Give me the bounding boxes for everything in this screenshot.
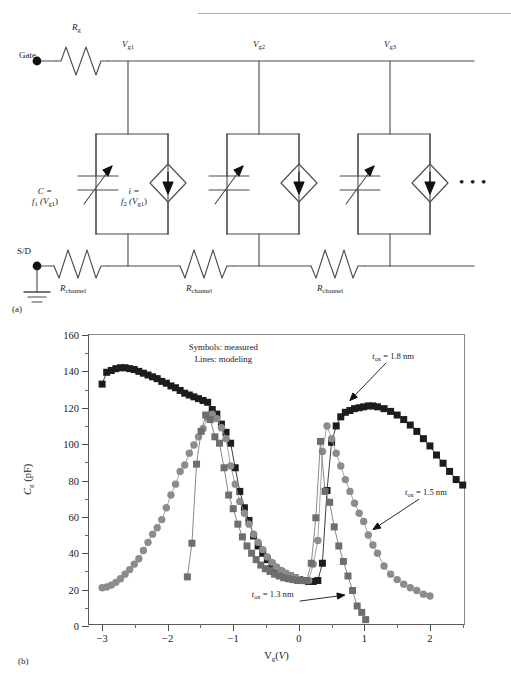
y-tick-label: 100 [63,439,79,450]
y-tick [82,517,89,518]
annotation-arrowhead [337,593,345,599]
legend-note-line2: Lines: modeling [189,354,258,366]
node-vg1-label: Vg1 [122,39,134,50]
circuit-schematic-svg [0,14,511,316]
rchannel-label-3: Rchannel [317,283,343,294]
y-tick [82,553,89,554]
rchannel-subscript-2: channel [192,287,213,294]
y-tick [82,626,89,627]
y-tick [82,371,89,372]
panel-b-tag: (b) [18,656,29,666]
circuit-diagram-panel: Gate Rg Vg1 Vg2 Vg3 C = f1 (Vg1) i = f2 … [0,14,511,316]
x-tick-label: 2 [427,633,432,644]
plot-axes-frame: 020406080100120140160 −3−2−1012 tox = 1.… [88,334,465,625]
current-function-label: i = f2 (Vg1) [103,186,165,208]
y-tick-label: 40 [69,548,80,559]
x-axis-label: Vg(V) [88,650,465,663]
cap-arg-close: ) [55,196,58,206]
y-tick [82,481,89,482]
legend-note-line1: Symbols: measured [189,342,258,354]
cap-eq-text: C = [38,186,52,196]
y-tick-label: 60 [69,511,80,522]
running-header-text [200,0,511,12]
vg2-subscript: g2 [259,43,266,50]
y-tick-label: 0 [74,621,79,632]
panel-a-tag: (a) [12,304,22,314]
rg-label-subscript: g [78,26,81,33]
y-tick [82,335,89,336]
figure-page: Gate Rg Vg1 Vg2 Vg3 C = f1 (Vg1) i = f2 … [0,0,511,674]
rchannel-subscript-3: channel [323,287,344,294]
sd-label: S/D [17,246,31,256]
tox-1p3-label: tox = 1.3 nm [252,589,294,600]
y-tick [82,408,89,409]
y-tick-label: 160 [63,330,79,341]
vg3-subscript: g3 [390,43,397,50]
node-vg2-label: Vg2 [253,39,265,50]
x-tick-label: −1 [228,633,239,644]
rchannel-label-2: Rchannel [186,283,212,294]
y-tick [82,444,89,445]
tox-1p5-label: tox = 1.5 nm [405,487,447,498]
sd-terminal-dot [33,262,42,271]
y-tick [82,590,89,591]
y-tick-label: 20 [69,584,80,595]
y-tick-label: 80 [69,475,80,486]
rchannel-label-1: Rchannel [60,283,86,294]
annotation-leader-line [373,499,419,529]
rchannel-subscript-1: channel [66,287,87,294]
annotation-arrows [89,335,466,626]
capacitance-plot-panel: 020406080100120140160 −3−2−1012 tox = 1.… [0,318,511,674]
y-tick-label: 120 [63,402,79,413]
cur-eq-text: i = [129,186,140,196]
x-tick-label: −3 [97,633,108,644]
vg1-subscript: g1 [128,43,135,50]
legend-note: Symbols: measured Lines: modeling [189,342,258,366]
y-tick-label: 140 [63,366,79,377]
annotation-arrowhead [373,523,381,530]
y-axis-label: Cg (pF) [20,334,38,625]
x-tick-label: −2 [162,633,173,644]
tox-1p8-label: tox = 1.8 nm [372,351,414,362]
cur-f-index: 2 [123,200,126,207]
capacitance-function-label: C = f1 (Vg1) [14,186,76,208]
gate-label: Gate [19,50,36,60]
rg-label: Rg [72,22,81,33]
x-tick-label: 0 [296,633,301,644]
x-tick-label: 1 [362,633,367,644]
cap-f-index: 1 [34,200,37,207]
continuation-ellipsis: • • • [459,174,487,191]
cur-arg-close: ) [144,196,147,206]
node-vg3-label: Vg3 [384,39,396,50]
